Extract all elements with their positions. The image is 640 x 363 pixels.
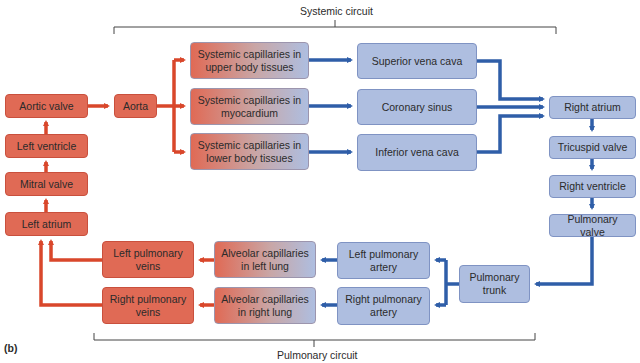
pulmonary-circuit-label: Pulmonary circuit	[277, 349, 358, 361]
node-left-pulmonary-veins: Left pulmonary veins	[102, 241, 194, 278]
node-coronary-sinus: Coronary sinus	[357, 89, 477, 125]
node-pulmonary-trunk: Pulmonary trunk	[459, 265, 530, 303]
node-aorta: Aorta	[114, 94, 157, 118]
node-left-atrium: Left atrium	[5, 212, 88, 236]
node-mitral-valve: Mitral valve	[5, 172, 88, 196]
node-inferior-vena-cava: Inferior vena cava	[357, 134, 477, 171]
node-capillaries-myocardium: Systemic capillaries in myocardium	[190, 88, 309, 125]
connector-lines	[0, 0, 640, 363]
node-aortic-valve: Aortic valve	[5, 94, 88, 118]
node-capillaries-upper: Systemic capillaries in upper body tissu…	[190, 42, 309, 79]
node-pulmonary-valve: Pulmonary valve	[549, 214, 636, 237]
node-right-pulmonary-veins: Right pulmonary veins	[102, 287, 194, 324]
node-left-ventricle: Left ventricle	[5, 134, 88, 158]
node-capillaries-lower: Systemic capillaries in lower body tissu…	[190, 133, 309, 170]
figure-label: (b)	[4, 342, 17, 354]
node-left-pulmonary-artery: Left pulmonary artery	[337, 242, 430, 279]
node-right-pulmonary-artery: Right pulmonary artery	[337, 287, 430, 325]
node-right-ventricle: Right ventricle	[549, 175, 636, 198]
node-alveolar-left: Alveolar capillaries in left lung	[214, 241, 316, 278]
node-right-atrium: Right atrium	[549, 96, 636, 119]
node-alveolar-right: Alveolar capillaries in right lung	[214, 287, 316, 324]
systemic-circuit-label: Systemic circuit	[300, 5, 373, 17]
node-tricuspid-valve: Tricuspid valve	[549, 136, 636, 159]
node-superior-vena-cava: Superior vena cava	[357, 43, 477, 79]
